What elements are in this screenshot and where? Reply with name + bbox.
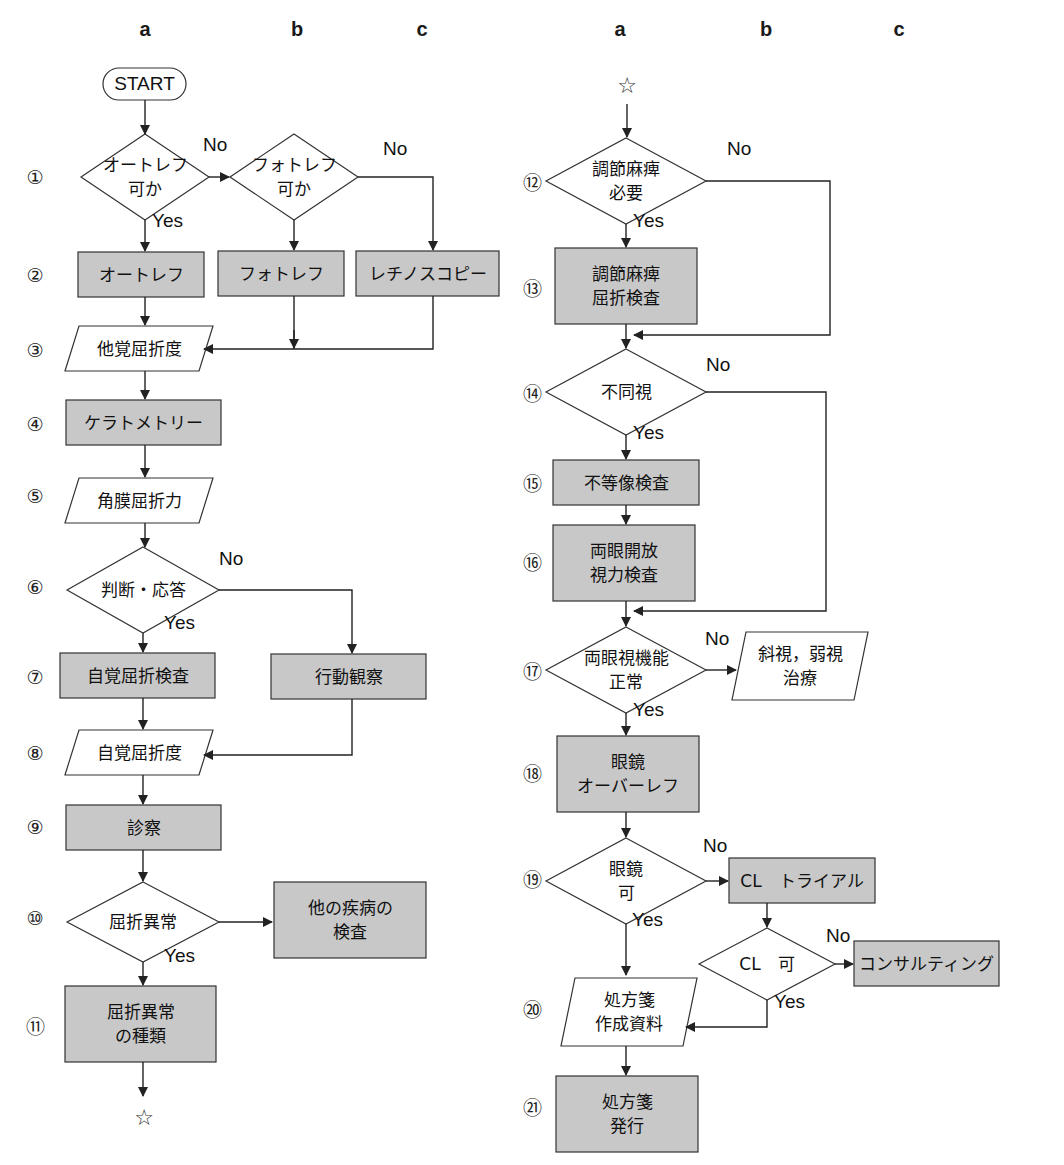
node-n7a-shape: [60, 653, 215, 698]
step-number: ③: [26, 339, 43, 361]
node-n19b-shape: [729, 858, 875, 903]
node-n7b-shape: [271, 654, 426, 699]
step-number: ⑭: [523, 379, 542, 406]
edge-label-yes: Yes: [774, 991, 805, 1013]
node-start-shape: [103, 68, 186, 100]
edge-label-no: No: [219, 548, 243, 570]
edge-label-no: No: [703, 835, 727, 857]
node-n21-shape: [556, 1076, 698, 1152]
edge-label-yes: Yes: [632, 909, 663, 931]
step-number: ④: [26, 413, 43, 435]
step-number: ⑯: [523, 548, 542, 575]
edge-label-yes: Yes: [633, 210, 664, 232]
edge-label-yes: Yes: [633, 422, 664, 444]
edge-label-no: No: [727, 138, 751, 160]
step-number: ⑨: [26, 816, 43, 838]
node-n12-shape: [546, 138, 706, 224]
edge-label-no: No: [826, 925, 850, 947]
step-number: ⑮: [523, 469, 542, 496]
step-number: ⑤: [26, 485, 43, 507]
node-n2b-shape: [218, 251, 344, 296]
step-number: ⑧: [26, 742, 43, 764]
node-n20-shape: [561, 978, 697, 1046]
node-n11-shape: [65, 986, 216, 1062]
step-number: ㉑: [523, 1093, 542, 1120]
column-header: b: [291, 18, 303, 41]
node-n2c-shape: [356, 251, 499, 296]
node-n5-shape: [65, 478, 213, 523]
node-n13-shape: [555, 248, 697, 324]
step-number: ⑰: [523, 657, 542, 684]
step-number: ①: [26, 166, 43, 188]
column-header: a: [139, 18, 150, 41]
step-number: ⑳: [523, 995, 542, 1022]
node-n19c-shape: [699, 928, 835, 1000]
column-header: c: [416, 18, 427, 41]
column-header: a: [614, 18, 625, 41]
node-n6-shape: [67, 547, 219, 633]
node-n4-shape: [66, 400, 221, 445]
node-n3-shape: [65, 326, 213, 371]
node-n14-shape: [546, 349, 706, 435]
step-number: ⑩: [26, 907, 43, 929]
edge-label-yes: Yes: [633, 699, 664, 721]
node-n10b-shape: [274, 882, 426, 958]
node-n17b-shape: [732, 632, 868, 700]
edge-label-yes: Yes: [164, 612, 195, 634]
node-shapes: [60, 68, 999, 1152]
connector-star-icon: ☆: [617, 73, 637, 98]
node-n10a-shape: [67, 882, 219, 962]
step-number: ⑱: [523, 759, 542, 786]
edge-label-no: No: [203, 134, 227, 156]
node-n1b-shape: [230, 134, 358, 220]
edge-label-no: No: [383, 138, 407, 160]
node-n19a-shape: [546, 838, 706, 924]
step-number: ②: [26, 264, 43, 286]
column-header: c: [893, 18, 904, 41]
step-number: ⑦: [26, 666, 43, 688]
node-n17a-shape: [546, 627, 706, 713]
step-number: ⑲: [523, 865, 542, 892]
node-n15-shape: [553, 460, 699, 505]
node-n16-shape: [553, 525, 695, 601]
edge-label-yes: Yes: [164, 945, 195, 967]
node-n1a-shape: [81, 134, 209, 220]
step-number: ⑥: [26, 576, 43, 598]
connector-star-icon: ☆: [134, 1105, 154, 1130]
step-number: ⑫: [523, 168, 542, 195]
edge-label-no: No: [705, 628, 729, 650]
step-number: ⑬: [523, 274, 542, 301]
node-n9-shape: [66, 805, 221, 850]
node-n2a-shape: [78, 252, 204, 297]
node-n19d-shape: [854, 941, 999, 986]
edge-label-no: No: [706, 354, 730, 376]
edge-label-yes: Yes: [152, 210, 183, 232]
node-n18-shape: [557, 736, 699, 812]
node-n8-shape: [65, 730, 213, 775]
column-header: b: [760, 18, 772, 41]
step-number: ⑪: [26, 1012, 45, 1039]
